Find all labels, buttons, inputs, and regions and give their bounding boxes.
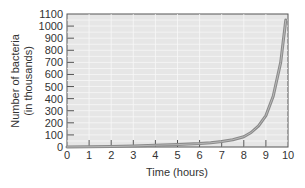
y-tick-label: 200 [45, 117, 63, 129]
x-axis-label: Time (hours) [146, 166, 208, 178]
y-axis-label-line2: (in thousands) [22, 46, 34, 116]
y-tick-label: 700 [45, 56, 63, 68]
y-tick-label: 500 [45, 81, 63, 93]
bacteria-growth-chart: 010020030040050060070080090010001100 012… [0, 0, 305, 188]
y-tick-label: 600 [45, 68, 63, 80]
y-tick-label: 0 [57, 141, 63, 153]
x-tick-label: 7 [219, 149, 225, 161]
x-tick-label: 2 [108, 149, 114, 161]
y-tick-label: 1000 [39, 20, 63, 32]
y-tick-label: 100 [45, 129, 63, 141]
y-tick-label: 300 [45, 105, 63, 117]
x-tick-label: 9 [263, 149, 269, 161]
x-tick-label: 3 [130, 149, 136, 161]
x-tick-label: 4 [152, 149, 158, 161]
x-tick-label: 1 [86, 149, 92, 161]
x-tick-label: 6 [197, 149, 203, 161]
y-axis-label-line1: Number of bacteria [9, 33, 21, 127]
y-tick-label: 800 [45, 44, 63, 56]
x-tick-label: 8 [241, 149, 247, 161]
x-tick-label: 5 [174, 149, 180, 161]
x-tick-label: 10 [282, 149, 294, 161]
y-tick-label: 1100 [39, 8, 63, 20]
y-tick-label: 400 [45, 93, 63, 105]
y-tick-label: 900 [45, 32, 63, 44]
x-tick-label: 0 [64, 149, 70, 161]
